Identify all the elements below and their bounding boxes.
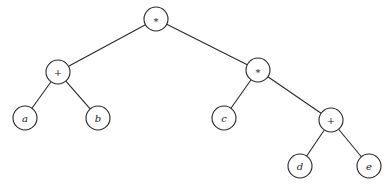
node-label: d [297,161,303,172]
edge-plus1-b [66,81,90,109]
node-label: * [256,67,261,78]
node-label: b [95,113,101,124]
edge-root-mul2 [167,24,248,64]
tree-node-plus2: + [319,108,343,132]
edge-root-plus1 [69,25,146,67]
tree-node-a: a [13,106,37,130]
tree-node-e: e [357,154,381,178]
tree-node-b: b [86,106,110,130]
node-label: c [221,113,227,124]
edge-mul2-c [231,80,251,108]
edge-plus1-a [32,82,51,108]
node-label: e [366,161,372,172]
edge-mul2-plus2 [268,77,321,113]
node-label: + [327,115,335,126]
node-label: + [54,67,62,78]
tree-node-plus1: + [46,60,70,84]
tree-node-d: d [288,154,312,178]
edges [32,24,361,156]
nodes: *+*abc+de [13,7,381,178]
node-label: * [154,16,159,27]
node-label: a [22,113,28,124]
tree-node-mul2: * [246,58,270,82]
tree-node-root: * [144,7,168,31]
expression-tree-diagram: *+*abc+de [0,0,388,193]
edge-plus2-e [339,129,362,156]
edge-plus2-d [307,130,325,156]
tree-node-c: c [212,106,236,130]
